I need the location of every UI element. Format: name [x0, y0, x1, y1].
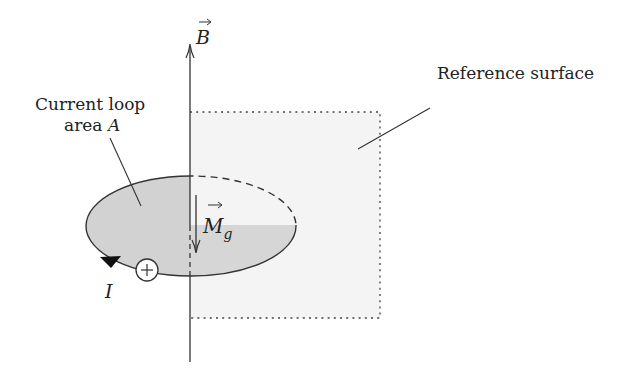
current-source-icon [136, 259, 158, 281]
loop-label-line1: Current loop [35, 94, 145, 114]
vector-arrow-icon [199, 19, 211, 25]
surface-label: Reference surface [437, 63, 594, 83]
loop-label-line2: area A [64, 115, 120, 135]
current-label: I [104, 280, 113, 302]
diagram-canvas: B Mg I Current loop area A Reference sur… [0, 0, 640, 380]
b-field-label: B [195, 26, 210, 48]
